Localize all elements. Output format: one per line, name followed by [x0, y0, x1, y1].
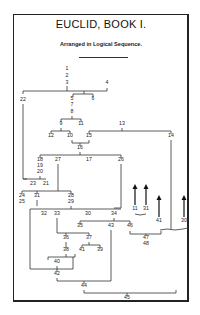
proposition-node: 15 [86, 132, 92, 138]
proposition-node: 25 [19, 198, 25, 204]
proposition-node: 17 [86, 156, 92, 162]
proposition-node: 37 [86, 234, 92, 240]
proposition-node: 23 [30, 180, 36, 186]
proposition-node: 27 [55, 156, 61, 162]
proposition-node: 7 [71, 101, 74, 107]
proposition-node: 22 [20, 96, 26, 102]
proposition-node: 21 [43, 180, 49, 186]
proposition-node: 29 [68, 198, 74, 204]
proposition-labels: 1234225678911131210151416182717261920232… [19, 65, 187, 300]
proposition-node: 6 [92, 95, 95, 101]
proposition-node: 13 [119, 120, 125, 126]
proposition-node: 43 [108, 222, 114, 228]
proposition-node: 36 [63, 234, 69, 240]
proposition-node: 12 [48, 132, 54, 138]
proposition-node: 33 [54, 210, 60, 216]
arrow-up-icon [182, 195, 187, 217]
proposition-node: 44 [81, 282, 87, 288]
proposition-node: 4 [106, 79, 109, 85]
proposition-node: 31 [34, 192, 40, 198]
proposition-node: 30 [181, 217, 187, 223]
proposition-node: 16 [77, 144, 83, 150]
arrow-up-icon [157, 195, 162, 217]
proposition-node: 45 [124, 294, 130, 300]
proposition-node: 34 [111, 210, 117, 216]
proposition-node: 39 [97, 246, 103, 252]
proposition-node: 38 [63, 246, 69, 252]
proposition-node: 1 [66, 65, 69, 71]
proposition-node: 9 [60, 120, 63, 126]
proposition-node: 32 [41, 210, 47, 216]
proposition-node: 40 [54, 258, 60, 264]
dependency-diagram: 1234225678911131210151416182717261920232… [0, 0, 200, 315]
arrow-up-icon [133, 184, 138, 205]
connector-lines [22, 86, 188, 296]
proposition-node: 2 [66, 72, 69, 78]
proposition-node: 46 [127, 222, 133, 228]
proposition-node: 20 [37, 168, 43, 174]
proposition-node: 11 [78, 120, 83, 126]
proposition-node: 41 [156, 217, 162, 223]
arrow-up-icon [144, 184, 149, 205]
proposition-node: 14 [168, 132, 174, 138]
proposition-node: 42 [54, 270, 60, 276]
proposition-node: 41 [79, 246, 85, 252]
proposition-node: 3 [66, 79, 69, 85]
proposition-node: 8 [71, 108, 74, 114]
arrows [133, 184, 187, 217]
proposition-node: 26 [118, 156, 124, 162]
proposition-node: 48 [143, 240, 149, 246]
proposition-node: 11 [132, 205, 137, 211]
proposition-node: 30 [85, 210, 91, 216]
proposition-node: 31 [143, 205, 149, 211]
proposition-node: 35 [77, 222, 83, 228]
proposition-node: 10 [67, 132, 73, 138]
